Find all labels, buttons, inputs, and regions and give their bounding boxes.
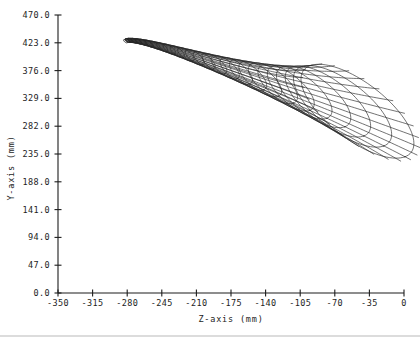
x-tick-label: -105 — [289, 298, 311, 308]
y-tick-label: 141.0 — [22, 205, 50, 215]
y-axis-title: Y-axis (mm) — [6, 135, 16, 200]
y-tick-label: 94.0 — [28, 232, 50, 242]
x-tick-label: -245 — [151, 298, 173, 308]
x-tick-label: -140 — [255, 298, 277, 308]
y-tick-label: 470.0 — [22, 10, 50, 20]
shell-wireframe-chart: 0.047.094.0141.0188.0235.0282.0329.0376.… — [0, 0, 420, 342]
y-tick-label: 0.0 — [33, 288, 50, 298]
x-tick-label: -35 — [361, 298, 378, 308]
x-tick-label: -280 — [116, 298, 138, 308]
x-tick-label: -175 — [220, 298, 242, 308]
x-tick-label: -70 — [327, 298, 344, 308]
y-tick-label: 282.0 — [22, 121, 50, 131]
y-tick-label: 47.0 — [28, 260, 50, 270]
x-tick-label: -350 — [47, 298, 69, 308]
y-tick-label: 376.0 — [22, 66, 50, 76]
y-tick-label: 423.0 — [22, 38, 50, 48]
y-tick-label: 329.0 — [22, 93, 50, 103]
chart-background — [0, 0, 420, 342]
x-tick-label: -210 — [185, 298, 207, 308]
y-tick-label: 235.0 — [22, 149, 50, 159]
x-tick-label: -315 — [82, 298, 104, 308]
x-axis-title: Z-axis (mm) — [198, 314, 263, 324]
chart-container: 0.047.094.0141.0188.0235.0282.0329.0376.… — [0, 0, 420, 342]
y-tick-label: 188.0 — [22, 177, 50, 187]
x-tick-label: 0 — [401, 298, 407, 308]
